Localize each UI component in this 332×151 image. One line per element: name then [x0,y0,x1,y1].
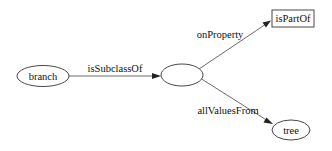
node-label-isPartOf: isPartOf [276,13,312,24]
node-blank[interactable] [161,64,203,86]
arrowhead-icon [264,118,274,125]
edge-isSubclassOf: isSubclassOf [69,63,161,79]
edge-label-allValuesFrom: allValuesFrom [197,105,258,116]
node-label-branch: branch [29,71,58,82]
node-label-tree: tree [283,125,299,136]
ellipse-shape [161,64,203,86]
edge-label-isSubclassOf: isSubclassOf [88,63,143,74]
node-isPartOf[interactable]: isPartOf [272,10,314,27]
ontology-graph: isSubclassOf onProperty allValuesFrom br… [0,0,332,151]
edge-allValuesFrom: allValuesFrom [197,78,273,124]
edge-onProperty: onProperty [197,21,271,70]
node-tree[interactable]: tree [272,120,310,140]
arrowhead-icon [263,21,272,28]
edge-label-onProperty: onProperty [197,29,244,40]
arrowhead-icon [152,73,161,79]
node-branch[interactable]: branch [17,66,69,87]
